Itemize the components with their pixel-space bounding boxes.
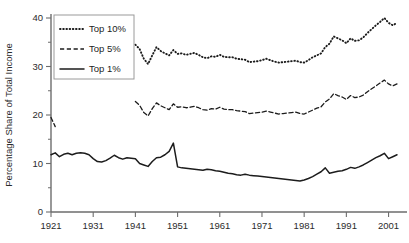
y-tick-label: 20: [32, 109, 43, 120]
y-axis: 010203040: [32, 12, 51, 217]
x-axis: 192119311941195119611971198119912001: [40, 212, 407, 231]
chart-legend: Top 10%Top 5%Top 1%: [54, 15, 134, 79]
x-tick-label: 1961: [209, 220, 230, 231]
legend-label-top-5: Top 5%: [89, 43, 121, 54]
income-share-line-chart: Percentage Share of Total Income 0102030…: [0, 0, 409, 243]
x-tick-label: 1991: [336, 220, 357, 231]
y-tick-label: 40: [32, 12, 43, 23]
series-line-top-5: [135, 80, 397, 116]
y-axis-title-text: Percentage Share of Total Income: [3, 43, 14, 186]
x-tick-label: 1921: [40, 220, 61, 231]
x-tick-label: 1941: [125, 220, 146, 231]
series-line-top-1: [51, 143, 397, 181]
legend-label-top-1: Top 1%: [89, 63, 121, 74]
series-line-top-10: [135, 18, 397, 64]
y-tick-label: 0: [38, 206, 43, 217]
y-axis-title: Percentage Share of Total Income: [3, 43, 14, 186]
x-tick-label: 1971: [251, 220, 272, 231]
legend-label-top-10: Top 10%: [89, 23, 127, 34]
x-tick-label: 1981: [294, 220, 315, 231]
x-tick-label: 2001: [378, 220, 399, 231]
y-tick-label: 30: [32, 61, 43, 72]
y-tick-label: 10: [32, 158, 43, 169]
chart-container: Percentage Share of Total Income 0102030…: [0, 0, 409, 243]
x-tick-label: 1951: [167, 220, 188, 231]
x-tick-label: 1931: [83, 220, 104, 231]
